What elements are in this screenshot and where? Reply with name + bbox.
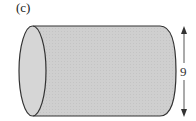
arrow-up-icon [181, 26, 187, 34]
cylinder-left-face [19, 26, 46, 116]
cylinder-body [33, 26, 176, 116]
cylinder-diagram: 9 [0, 0, 196, 121]
arrow-down-icon [181, 109, 187, 117]
height-dimension-label: 9 [180, 64, 187, 79]
